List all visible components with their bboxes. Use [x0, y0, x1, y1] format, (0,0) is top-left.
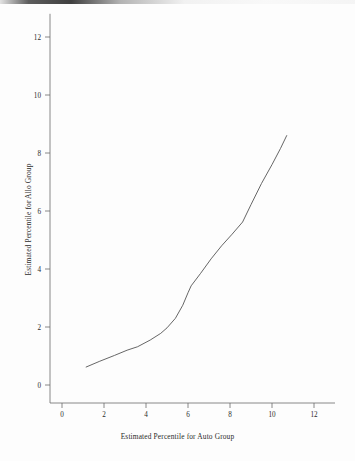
x-axis-tick-label: 6 [186, 411, 190, 419]
x-axis-tick-label: 0 [60, 411, 64, 419]
x-axis-tick-label: 2 [102, 411, 106, 419]
y-axis-tick-label: 2 [37, 324, 41, 332]
x-axis-tick-label: 10 [268, 411, 276, 419]
y-axis-tick-label: 0 [37, 382, 41, 390]
y-axis-tick-label: 8 [37, 150, 41, 158]
y-axis-tick-label: 10 [34, 92, 42, 100]
plot-area: 024681012024681012 [0, 0, 355, 461]
y-axis-title: Estimated Percentile for Allo Group [24, 130, 33, 310]
y-axis-tick-label: 12 [34, 34, 42, 42]
x-axis-tick-label: 8 [228, 411, 232, 419]
y-axis-tick-label: 6 [37, 208, 41, 216]
x-axis-title: Estimated Percentile for Auto Group [0, 432, 355, 441]
chart-figure: 024681012024681012 Estimated Percentile … [0, 0, 355, 461]
x-axis-tick-label: 12 [310, 411, 318, 419]
y-axis-tick-label: 4 [37, 266, 41, 274]
data-series-line [86, 136, 287, 367]
x-axis-tick-label: 4 [144, 411, 148, 419]
